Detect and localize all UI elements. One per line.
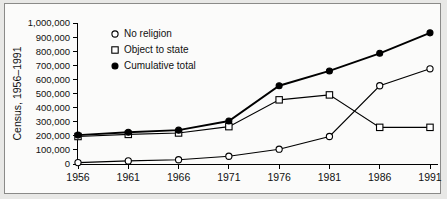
data-point-marker — [175, 157, 181, 163]
data-point-marker — [326, 68, 332, 74]
data-point-marker — [125, 129, 131, 135]
data-point-marker — [427, 30, 433, 36]
legend-label: Cumulative total — [124, 60, 196, 71]
data-point-marker — [326, 133, 332, 139]
y-tick-label: 800,000 — [36, 46, 70, 57]
x-tick-label: 1981 — [318, 171, 342, 183]
legend-label: Object to state — [124, 44, 189, 55]
x-tick-label: 1961 — [117, 171, 141, 183]
data-point-marker — [226, 118, 232, 124]
line-chart: 0100,000200,000300,000400,000500,000600,… — [5, 4, 442, 195]
data-point-marker — [276, 97, 282, 103]
y-axis-ticks — [73, 23, 78, 164]
figure-frame: 0100,000200,000300,000400,000500,000600,… — [4, 3, 441, 194]
x-axis-tick-labels: 19561961196619711976198119861991 — [66, 171, 442, 183]
data-point-marker — [326, 92, 332, 98]
y-tick-label: 100,000 — [36, 144, 70, 155]
legend-marker-open-circle — [112, 31, 118, 37]
legend-item: Object to state — [112, 44, 189, 55]
data-point-marker — [377, 50, 383, 56]
x-tick-label: 1986 — [368, 171, 392, 183]
data-point-marker — [377, 83, 383, 89]
data-point-marker — [75, 132, 81, 138]
data-point-marker — [226, 153, 232, 159]
legend-item: No religion — [112, 28, 172, 39]
data-point-marker — [75, 159, 81, 165]
data-point-marker — [377, 124, 383, 130]
legend-marker-filled-circle — [112, 63, 118, 69]
x-tick-label: 1991 — [418, 171, 442, 183]
legend-label: No religion — [124, 28, 172, 39]
y-tick-label: 0 — [65, 158, 70, 169]
y-tick-label: 300,000 — [36, 116, 70, 127]
y-axis-title: Census, 1956–1991 — [11, 46, 23, 140]
y-axis-tick-labels: 0100,000200,000300,000400,000500,000600,… — [28, 17, 70, 169]
series-line — [78, 69, 430, 163]
y-tick-label: 500,000 — [36, 88, 70, 99]
legend-marker-open-square — [112, 47, 118, 53]
x-tick-label: 1966 — [167, 171, 191, 183]
data-point-marker — [276, 146, 282, 152]
data-point-marker — [176, 127, 182, 133]
chart-plot-area: 0100,000200,000300,000400,000500,000600,… — [5, 4, 442, 195]
x-tick-label: 1971 — [217, 171, 241, 183]
legend-item: Cumulative total — [112, 60, 196, 71]
y-tick-label: 400,000 — [36, 102, 70, 113]
data-point-marker — [276, 83, 282, 89]
x-tick-label: 1976 — [267, 171, 291, 183]
chart-legend: No religionObject to stateCumulative tot… — [112, 28, 196, 71]
data-point-marker — [125, 158, 131, 164]
y-tick-label: 1,000,000 — [28, 17, 70, 28]
series-no-religion — [75, 66, 433, 166]
y-tick-label: 600,000 — [36, 74, 70, 85]
y-tick-label: 700,000 — [36, 60, 70, 71]
data-point-marker — [427, 66, 433, 72]
x-axis-ticks — [78, 165, 430, 170]
y-tick-label: 900,000 — [36, 32, 70, 43]
x-tick-label: 1956 — [66, 171, 90, 183]
y-tick-label: 200,000 — [36, 130, 70, 141]
data-point-marker — [427, 124, 433, 130]
